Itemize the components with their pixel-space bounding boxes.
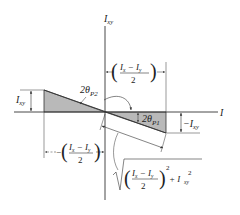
- radius-dim: [102, 126, 163, 148]
- svg-text:xy: xy: [183, 179, 189, 185]
- svg-text:Ix − Iy: Ix − Iy: [68, 142, 91, 153]
- svg-text:): ): [94, 140, 101, 163]
- svg-text:2: 2: [78, 155, 83, 165]
- angle-p2-label: 2θP2: [80, 84, 98, 98]
- angle-p2-leader: [80, 97, 86, 104]
- radius-ext-origin: [100, 114, 105, 130]
- svg-text:Ix − Iy: Ix − Iy: [119, 62, 142, 73]
- svg-text:+ I: + I: [169, 174, 181, 184]
- svg-text:): ): [159, 167, 166, 190]
- svg-text:2: 2: [141, 181, 146, 191]
- top-fraction: ( Ix − Iy 2 ): [111, 60, 157, 85]
- ixy-left-label: Ixy: [15, 94, 25, 106]
- bottom-fraction: − ( Ix − Iy 2 ): [56, 140, 101, 165]
- svg-text:(: (: [124, 167, 131, 190]
- svg-text:Ix − Iy: Ix − Iy: [131, 168, 154, 179]
- angle-p2-arc: [104, 96, 131, 110]
- svg-text:2: 2: [166, 164, 170, 172]
- neg-ixy-label: −Ixy: [183, 118, 199, 130]
- radius-leader: [114, 133, 119, 170]
- mohrs-circle-diagram: Ixy I Ixy −Ixy 2θP2 2θP1 ( Ix − Iy 2 ) −…: [0, 0, 240, 215]
- vertical-axis-label: Ixy: [103, 13, 113, 25]
- radius-ext-right: [161, 134, 166, 152]
- svg-text:(: (: [61, 140, 68, 163]
- svg-text:2: 2: [188, 169, 192, 177]
- svg-text:2: 2: [131, 75, 136, 85]
- horizontal-axis-label: I: [219, 107, 224, 118]
- svg-text:(: (: [111, 60, 118, 83]
- svg-text:): ): [150, 60, 157, 83]
- radius-formula: ( Ix − Iy 2 ) 2 + I xy 2: [113, 159, 202, 191]
